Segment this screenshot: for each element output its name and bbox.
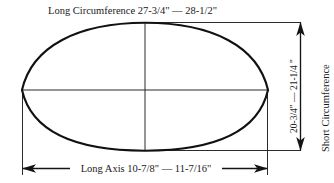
- football-dimensions-diagram: Long Circumference 27-3/4" — 28-1/2" 20-…: [0, 0, 334, 183]
- short-circumference-name-label: Short Circumference: [320, 64, 331, 152]
- short-circumference-value-label: 20-3/4" — 21-1/4 ": [289, 59, 299, 133]
- diagram-canvas: Long Circumference 27-3/4" — 28-1/2" 20-…: [0, 0, 334, 183]
- long-axis-label: Long Axis 10-7/8" — 11-7/16": [81, 163, 212, 174]
- long-circumference-label: Long Circumference 27-3/4" — 28-1/2": [48, 5, 217, 16]
